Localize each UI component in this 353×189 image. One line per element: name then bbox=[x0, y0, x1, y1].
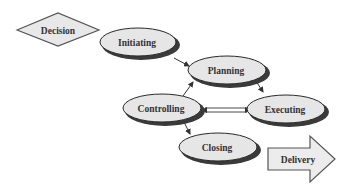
node-planning: Planning bbox=[188, 56, 270, 88]
process-diagram: Decision Initiating Planning Controlling… bbox=[0, 0, 353, 189]
edge-controlling-planning bbox=[183, 82, 193, 96]
node-planning-label: Planning bbox=[208, 66, 245, 76]
node-decision: Decision bbox=[17, 13, 99, 46]
node-executing: Executing bbox=[247, 95, 329, 127]
node-initiating: Initiating bbox=[100, 28, 180, 60]
edge-initiating-planning bbox=[174, 58, 189, 66]
node-delivery: Delivery bbox=[268, 136, 335, 182]
node-closing: Closing bbox=[179, 133, 261, 165]
node-initiating-label: Initiating bbox=[118, 38, 156, 48]
node-closing-label: Closing bbox=[202, 143, 233, 153]
node-decision-label: Decision bbox=[41, 26, 76, 36]
node-controlling-label: Controlling bbox=[138, 104, 185, 114]
node-delivery-label: Delivery bbox=[281, 155, 316, 165]
edge-controlling-executing bbox=[201, 107, 251, 113]
node-executing-label: Executing bbox=[265, 105, 306, 115]
node-controlling: Controlling bbox=[123, 94, 205, 126]
edge-controlling-closing bbox=[185, 124, 190, 134]
